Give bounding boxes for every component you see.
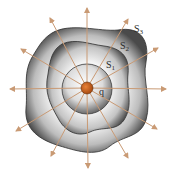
point-charge bbox=[81, 82, 93, 94]
charge-label: q bbox=[99, 86, 104, 97]
gauss-law-diagram: q S1 S2 S3 bbox=[0, 0, 179, 180]
diagram-canvas: q S1 S2 S3 bbox=[0, 0, 179, 180]
